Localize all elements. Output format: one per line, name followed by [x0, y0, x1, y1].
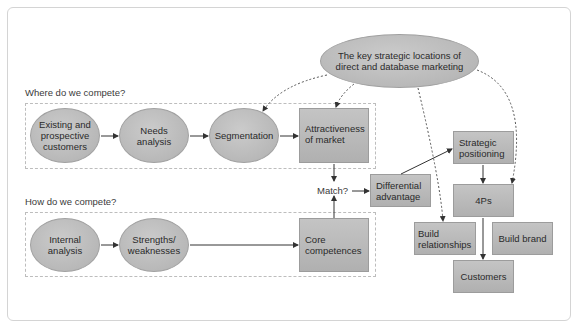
- internal-analysis-label: Internal analysis: [31, 234, 99, 256]
- existing-customers-label: Existing and prospective customers: [31, 119, 99, 152]
- strategic-positioning-node: Strategic positioning: [453, 131, 514, 164]
- top-node-ellipse: The key strategic locations of direct an…: [320, 34, 479, 88]
- where-section-label: Where do we compete?: [25, 87, 125, 98]
- fourps-node: 4Ps: [453, 184, 514, 217]
- build-brand-node: Build brand: [492, 222, 553, 255]
- needs-analysis-node: Needs analysis: [119, 108, 189, 163]
- how-section-label: How do we compete?: [25, 196, 116, 207]
- differential-advantage-label: Differential advantage: [376, 180, 430, 202]
- customers-label: Customers: [461, 271, 507, 282]
- build-brand-label: Build brand: [498, 233, 546, 244]
- needs-analysis-label: Needs analysis: [120, 125, 188, 147]
- existing-customers-node: Existing and prospective customers: [30, 108, 100, 163]
- core-competences-label: Core competences: [305, 234, 368, 256]
- segmentation-label: Segmentation: [215, 130, 274, 141]
- attractiveness-label: Attractiveness of market: [305, 123, 368, 145]
- fourps-label: 4Ps: [475, 195, 491, 206]
- match-label: Match?: [317, 185, 348, 196]
- strengths-label: Strengths/ weaknesses: [120, 234, 188, 256]
- segmentation-node: Segmentation: [209, 108, 279, 163]
- build-relationships-node: Build relationships: [414, 222, 476, 255]
- core-competences-node: Core competences: [299, 218, 369, 272]
- top-node-label: The key strategic locations of direct an…: [331, 50, 468, 72]
- strengths-node: Strengths/ weaknesses: [119, 218, 189, 272]
- strategic-positioning-label: Strategic positioning: [459, 137, 513, 159]
- build-relationships-label: Build relationships: [418, 228, 475, 250]
- differential-advantage-node: Differential advantage: [370, 174, 431, 207]
- customers-node: Customers: [453, 260, 514, 293]
- attractiveness-node: Attractiveness of market: [299, 108, 369, 163]
- internal-analysis-node: Internal analysis: [30, 218, 100, 272]
